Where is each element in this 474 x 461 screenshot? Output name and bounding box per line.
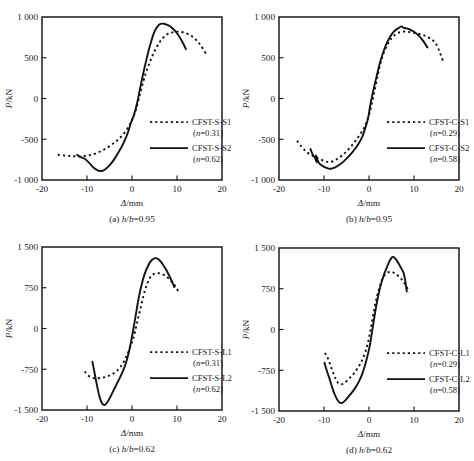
x-tick-label: -10 bbox=[318, 415, 331, 425]
curve-cfst-c-l2 bbox=[324, 257, 406, 403]
legend-label-cfst-c-s1: CFST-C-S1 bbox=[429, 117, 469, 127]
x-tick-label: 0 bbox=[367, 415, 372, 425]
x-tick-label: 20 bbox=[217, 184, 227, 194]
x-axis-label: Δ/mm bbox=[357, 198, 380, 208]
y-tick-label: 750 bbox=[24, 283, 38, 293]
legend-label-cfst-c-s2: CFST-C-S2 bbox=[429, 143, 469, 153]
x-tick-label: 20 bbox=[217, 414, 227, 424]
y-tick-label: 1 500 bbox=[254, 243, 275, 253]
x-tick-label: 10 bbox=[172, 184, 182, 194]
legend-label-cfst-c-l2: CFST-C-L2 bbox=[429, 374, 470, 384]
legend-label-cfst-s-l1: CFST-S-L1 bbox=[192, 347, 232, 357]
curve-cfst-c-s1 bbox=[297, 32, 443, 163]
y-tick-label: 1 000 bbox=[254, 12, 275, 22]
x-axis-label: Δ/mm bbox=[120, 428, 143, 438]
curve-cfst-s-s1 bbox=[58, 32, 207, 157]
legend-sublabel-cfst-c-s2: (n=0.58) bbox=[430, 154, 460, 164]
legend-label-cfst-s-l2: CFST-S-L2 bbox=[192, 373, 232, 383]
y-tick-label: -1 500 bbox=[251, 406, 275, 416]
legend-sublabel-cfst-s-s2: (n=0.62) bbox=[193, 154, 223, 164]
chart-panel-b: -20-10010201 0005000-500-1 000P/kNΔ/mmCF… bbox=[237, 0, 474, 230]
curve-cfst-c-l1 bbox=[325, 272, 409, 385]
y-tick-label: -500 bbox=[21, 135, 38, 145]
x-tick-label: -10 bbox=[81, 184, 94, 194]
y-axis-label: P/kN bbox=[4, 318, 14, 339]
panel-caption: (b) h/b=0.95 bbox=[346, 214, 392, 224]
legend-sublabel-cfst-c-s1: (n=0.29) bbox=[430, 128, 460, 138]
y-tick-label: -750 bbox=[258, 366, 275, 376]
y-tick-label: -500 bbox=[258, 135, 275, 145]
y-tick-label: 0 bbox=[270, 94, 275, 104]
y-tick-label: 1 000 bbox=[17, 12, 38, 22]
legend-sublabel-cfst-c-l2: (n=0.58) bbox=[430, 385, 460, 395]
x-tick-label: 20 bbox=[454, 415, 464, 425]
legend-sublabel-cfst-s-l2: (n=0.62) bbox=[193, 384, 223, 394]
x-tick-label: 10 bbox=[172, 414, 182, 424]
y-axis-label: P/kN bbox=[241, 319, 251, 340]
panel-caption: (a) h/b=0.95 bbox=[109, 214, 155, 224]
x-tick-label: 0 bbox=[130, 414, 135, 424]
hysteresis-figure: -20-10010201 0005000-500-1 000P/kNΔ/mmCF… bbox=[0, 0, 474, 461]
x-axis-label: Δ/mm bbox=[120, 198, 143, 208]
y-tick-label: 500 bbox=[261, 53, 275, 63]
x-tick-label: 20 bbox=[454, 184, 464, 194]
x-axis-label: Δ/mm bbox=[357, 429, 380, 439]
y-tick-label: 500 bbox=[24, 53, 38, 63]
x-tick-label: 0 bbox=[130, 184, 135, 194]
y-tick-label: 0 bbox=[270, 325, 275, 335]
curve-cfst-s-l1 bbox=[85, 273, 179, 378]
legend-sublabel-cfst-s-s1: (n=0.31) bbox=[193, 128, 223, 138]
legend-label-cfst-s-s2: CFST-S-S2 bbox=[192, 143, 231, 153]
chart-panel-c: -20-10010201 5007500-750-1 500P/kNΔ/mmCF… bbox=[0, 230, 237, 460]
curve-cfst-s-l2 bbox=[92, 258, 174, 405]
legend-sublabel-cfst-s-l1: (n=0.31) bbox=[193, 358, 223, 368]
y-tick-label: -1 000 bbox=[251, 175, 275, 185]
y-axis-label: P/kN bbox=[241, 88, 251, 109]
x-tick-label: 10 bbox=[409, 415, 419, 425]
x-tick-label: 0 bbox=[367, 184, 372, 194]
y-tick-label: -1 500 bbox=[14, 405, 38, 415]
y-tick-label: 1 500 bbox=[17, 242, 38, 252]
x-tick-label: -10 bbox=[318, 184, 331, 194]
legend-label-cfst-s-s1: CFST-S-S1 bbox=[192, 117, 231, 127]
y-tick-label: 750 bbox=[261, 284, 275, 294]
chart-panel-d: -20-10010201 5007500-750-1 500P/kNΔ/mmCF… bbox=[237, 231, 474, 461]
y-axis-label: P/kN bbox=[4, 88, 14, 109]
figure-bottom-caption bbox=[0, 450, 474, 461]
legend-label-cfst-c-l1: CFST-C-L1 bbox=[429, 348, 470, 358]
y-tick-label: 0 bbox=[33, 324, 38, 334]
x-tick-label: 10 bbox=[409, 184, 419, 194]
y-tick-label: -1 000 bbox=[14, 175, 38, 185]
y-tick-label: 0 bbox=[33, 94, 38, 104]
x-tick-label: -10 bbox=[81, 414, 94, 424]
legend-sublabel-cfst-c-l1: (n=0.29) bbox=[430, 359, 460, 369]
y-tick-label: -750 bbox=[21, 365, 38, 375]
chart-panel-a: -20-10010201 0005000-500-1 000P/kNΔ/mmCF… bbox=[0, 0, 237, 230]
